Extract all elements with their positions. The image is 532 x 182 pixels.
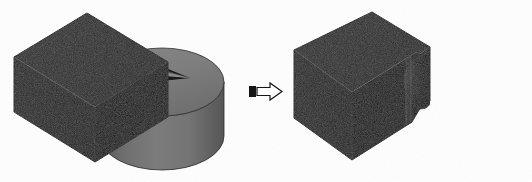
figure-canvas: Boolean subtraction of a cylinder from a… (0, 0, 532, 182)
arrow-tail-block (249, 86, 256, 97)
csg-illustration-svg (0, 0, 532, 182)
